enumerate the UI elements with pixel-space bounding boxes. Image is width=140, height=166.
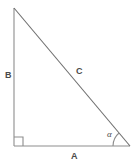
right-triangle-figure: B C A α: [0, 0, 140, 166]
right-angle-square: [14, 137, 23, 146]
side-a-label: A: [71, 152, 78, 161]
triangle-drawing: [0, 0, 140, 166]
side-c-label: C: [76, 67, 83, 76]
side-c-line: [14, 8, 130, 146]
side-b-label: B: [5, 71, 12, 80]
alpha-angle-arc: [113, 133, 119, 146]
alpha-angle-label: α: [107, 130, 112, 139]
